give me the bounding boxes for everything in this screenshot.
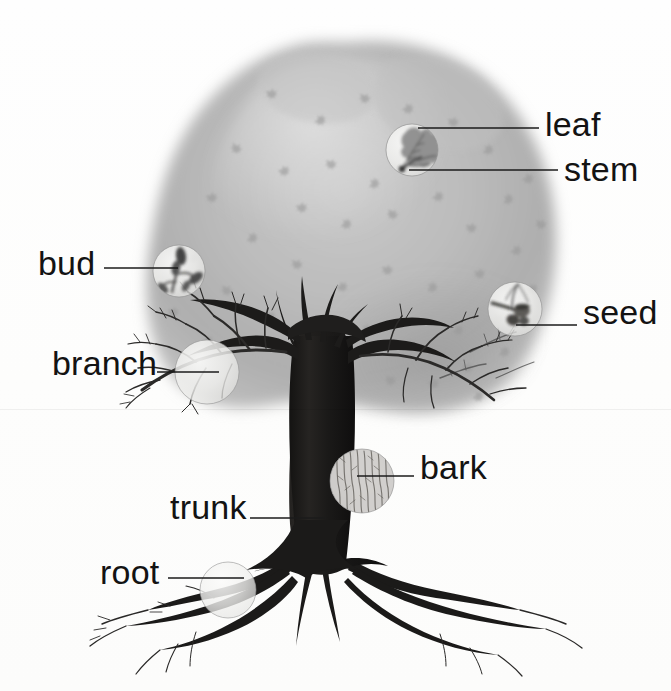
scan-seam-line [0, 409, 671, 410]
label-leaf: leaf [545, 107, 601, 141]
bud-magnifier [153, 245, 205, 297]
label-seed: seed [583, 295, 658, 329]
label-trunk: trunk [170, 490, 247, 524]
seed-magnifier [488, 282, 542, 336]
label-stem: stem [564, 152, 638, 186]
label-root: root [100, 555, 159, 589]
tree-roots [90, 560, 582, 676]
bark-magnifier [330, 449, 394, 513]
root-magnifier [200, 562, 256, 618]
label-bark: bark [420, 450, 487, 484]
label-branch: branch [52, 346, 157, 380]
tree-diagram-page: leaf stem bud seed branch bark trunk roo… [0, 0, 671, 691]
label-bud: bud [38, 246, 95, 280]
